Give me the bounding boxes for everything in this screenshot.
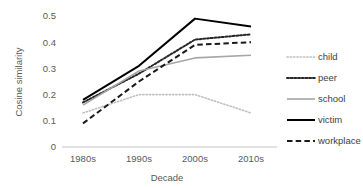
- y-tick-label: 0.5: [43, 10, 56, 21]
- x-axis-title: Decade: [151, 172, 184, 183]
- line-chart: 00.10.20.30.40.5 1980s1990s2000s2010s ch…: [0, 0, 363, 188]
- legend-label-workplace: workplace: [317, 135, 361, 146]
- x-axis-tick-labels: 1980s1990s2000s2010s: [70, 153, 264, 164]
- legend-label-victim: victim: [318, 114, 342, 125]
- series-line-workplace: [83, 42, 251, 123]
- series-line-peer: [83, 34, 251, 102]
- x-tick-label: 1990s: [126, 153, 152, 164]
- y-tick-label: 0.3: [43, 63, 56, 74]
- y-tick-label: 0.4: [43, 37, 56, 48]
- chart-container: 00.10.20.30.40.5 1980s1990s2000s2010s ch…: [0, 0, 363, 188]
- y-axis-tick-labels: 00.10.20.30.40.5: [43, 10, 56, 152]
- y-tick-label: 0.1: [43, 115, 56, 126]
- series-line-child: [83, 95, 251, 113]
- x-tick-label: 2010s: [238, 153, 264, 164]
- chart-legend: childpeerschoolvictimworkplace: [287, 51, 361, 146]
- series-line-victim: [83, 19, 251, 100]
- legend-label-school: school: [318, 93, 345, 104]
- legend-label-child: child: [318, 51, 338, 62]
- x-tick-label: 2000s: [182, 153, 208, 164]
- y-tick-label: 0.2: [43, 89, 56, 100]
- x-tick-label: 1980s: [70, 153, 96, 164]
- series-lines: [83, 19, 251, 124]
- series-line-school: [83, 55, 251, 105]
- y-tick-label: 0: [51, 141, 56, 152]
- legend-label-peer: peer: [318, 72, 337, 83]
- y-axis-title: Cosine similarity: [13, 47, 24, 116]
